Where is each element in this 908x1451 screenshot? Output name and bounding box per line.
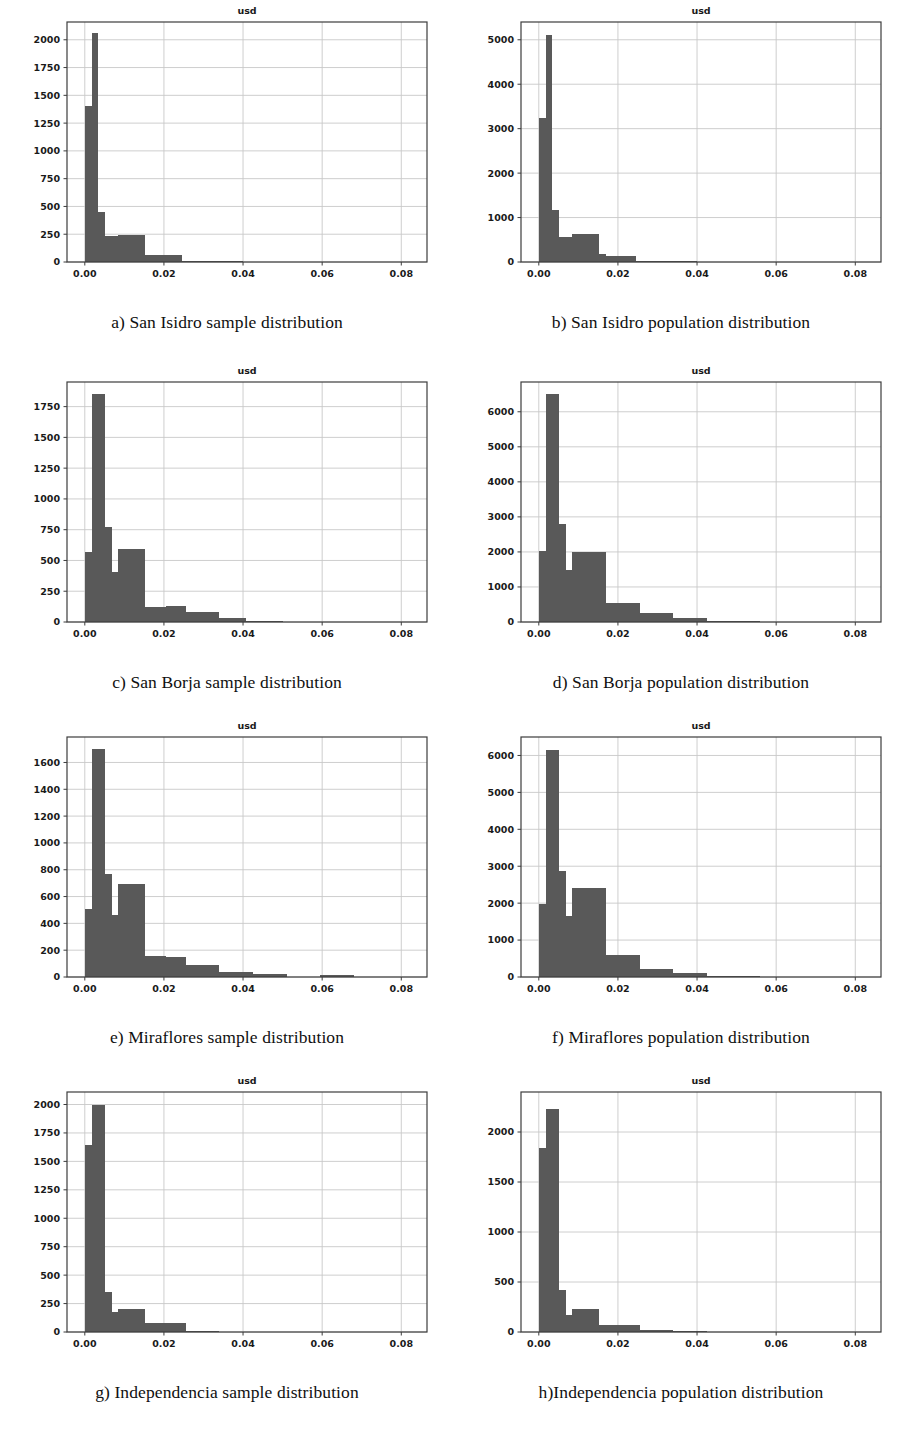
axis-title: usd — [691, 720, 710, 731]
y-tick-label: 200 — [40, 945, 60, 956]
axis-title: usd — [237, 365, 256, 376]
y-tick-label: 0 — [53, 1326, 60, 1337]
x-tick-label: 0.02 — [606, 1338, 629, 1349]
axis-title: usd — [237, 720, 256, 731]
y-tick-label: 0 — [507, 616, 514, 627]
figure-panel-a: 0250500750100012501500175020000.000.020.… — [0, 0, 454, 360]
x-tick-label: 0.00 — [527, 268, 551, 279]
x-tick-label: 0.08 — [390, 628, 414, 639]
y-tick-label: 1500 — [34, 1156, 61, 1167]
histogram-plot-h: 05001000150020000.000.020.040.060.08usd — [466, 1070, 896, 1370]
y-tick-label: 400 — [40, 918, 60, 929]
x-tick-label: 0.04 — [685, 628, 709, 639]
figure-panel-e: 020040060080010001200140016000.000.020.0… — [0, 715, 454, 1070]
y-tick-label: 1000 — [488, 212, 515, 223]
histogram-bar — [566, 1315, 573, 1333]
histogram-bar — [539, 551, 546, 622]
histogram-bar — [118, 884, 145, 977]
y-tick-label: 2000 — [34, 34, 61, 45]
histogram-bar — [606, 256, 636, 262]
plot-background — [521, 22, 881, 262]
histogram-bar — [673, 973, 707, 977]
x-tick-label: 0.08 — [390, 268, 414, 279]
histogram-bar — [566, 916, 573, 977]
axis-title: usd — [237, 1075, 256, 1086]
histogram-bar — [98, 212, 105, 262]
y-tick-label: 1000 — [34, 837, 61, 848]
x-tick-label: 0.02 — [152, 983, 175, 994]
histogram-svg: 01000200030004000500060000.000.020.040.0… — [466, 360, 896, 660]
histogram-bar — [92, 1105, 99, 1332]
x-tick-label: 0.06 — [310, 628, 334, 639]
x-tick-label: 0.06 — [310, 983, 334, 994]
panel-caption: e) Miraflores sample distribution — [110, 1027, 344, 1048]
histogram-bar — [105, 1292, 112, 1332]
x-tick-label: 0.08 — [390, 983, 414, 994]
y-tick-label: 750 — [40, 173, 60, 184]
y-tick-label: 5000 — [488, 787, 515, 798]
y-tick-label: 1500 — [34, 432, 61, 443]
x-tick-label: 0.02 — [152, 268, 175, 279]
histogram-bar — [92, 33, 99, 262]
y-tick-label: 6000 — [488, 406, 515, 417]
y-tick-label: 1750 — [34, 401, 61, 412]
y-tick-label: 1000 — [34, 1213, 61, 1224]
y-tick-label: 1250 — [34, 463, 61, 474]
y-tick-label: 5000 — [488, 34, 515, 45]
y-tick-label: 1250 — [34, 118, 61, 129]
histogram-plot-a: 0250500750100012501500175020000.000.020.… — [12, 0, 442, 300]
y-tick-label: 0 — [507, 971, 514, 982]
x-tick-label: 0.02 — [606, 983, 629, 994]
histogram-plot-c: 025050075010001250150017500.000.020.040.… — [12, 360, 442, 660]
histogram-bar — [566, 570, 573, 622]
y-tick-label: 2000 — [488, 1126, 515, 1137]
axis-title: usd — [691, 1075, 710, 1086]
y-tick-label: 1000 — [488, 934, 515, 945]
y-tick-label: 500 — [40, 1270, 60, 1281]
y-tick-label: 2000 — [488, 898, 515, 909]
figure-panel-f: 01000200030004000500060000.000.020.040.0… — [454, 715, 908, 1070]
histogram-bar — [186, 965, 220, 977]
y-tick-label: 500 — [40, 555, 60, 566]
histogram-plot-b: 0100020003000400050000.000.020.040.060.0… — [466, 0, 896, 300]
y-tick-label: 0 — [507, 1326, 514, 1337]
histogram-bar — [559, 871, 566, 977]
y-tick-label: 4000 — [488, 476, 515, 487]
histogram-bar — [546, 750, 559, 977]
histogram-svg: 0250500750100012501500175020000.000.020.… — [12, 1070, 442, 1370]
x-tick-label: 0.06 — [764, 1338, 788, 1349]
x-tick-label: 0.06 — [764, 983, 788, 994]
y-tick-label: 4000 — [488, 824, 515, 835]
histogram-bar — [552, 210, 559, 262]
figure-panel-b: 0100020003000400050000.000.020.040.060.0… — [454, 0, 908, 360]
histogram-bar — [572, 1309, 599, 1333]
histogram-bar — [599, 254, 606, 262]
x-tick-label: 0.06 — [764, 628, 788, 639]
histogram-bar — [559, 237, 572, 262]
histogram-bar — [166, 606, 186, 622]
x-tick-label: 0.00 — [527, 1338, 551, 1349]
histogram-svg: 0250500750100012501500175020000.000.020.… — [12, 0, 442, 300]
histogram-bar — [599, 1325, 639, 1333]
figure-grid: 0250500750100012501500175020000.000.020.… — [0, 0, 908, 1451]
y-tick-label: 0 — [53, 256, 60, 267]
histogram-bar — [640, 969, 674, 977]
histogram-bar — [105, 874, 112, 977]
x-tick-label: 0.00 — [73, 1338, 97, 1349]
histogram-bar — [118, 1309, 145, 1332]
y-tick-label: 250 — [40, 1298, 60, 1309]
x-tick-label: 0.06 — [310, 1338, 334, 1349]
histogram-bar — [85, 1145, 92, 1332]
histogram-bar — [92, 749, 105, 977]
axis-title: usd — [237, 5, 256, 16]
histogram-bar — [166, 957, 186, 977]
axis-title: usd — [691, 365, 710, 376]
histogram-bar — [559, 1290, 566, 1333]
histogram-bar — [559, 524, 566, 622]
axis-title: usd — [691, 5, 710, 16]
y-tick-label: 2000 — [488, 546, 515, 557]
histogram-svg: 05001000150020000.000.020.040.060.08usd — [466, 1070, 896, 1370]
y-tick-label: 3000 — [488, 511, 515, 522]
y-tick-label: 1600 — [34, 757, 61, 768]
histogram-bar — [85, 106, 92, 262]
